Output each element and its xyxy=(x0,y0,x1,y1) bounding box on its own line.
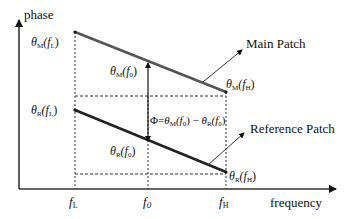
phase-frequency-diagram: phase frequency Main Patch Reference Pat… xyxy=(0,0,350,219)
theta-m-fl-label: θM(fL) xyxy=(31,35,59,50)
tick-fL: fL xyxy=(69,194,78,210)
theta-m-fh-label: θM(fH) xyxy=(226,77,255,92)
theta-m-f0-label: θM(f0) xyxy=(110,64,137,79)
main-patch-callout-arrow xyxy=(203,50,242,82)
tick-fH: fH xyxy=(219,194,229,210)
main-patch-line xyxy=(75,32,226,92)
phase-difference-equation: Φ=θM(f0) − θR(f0) xyxy=(150,114,226,128)
reference-patch-label: Reference Patch xyxy=(250,121,335,136)
tick-f0: f0 xyxy=(143,194,152,210)
x-axis-label: frequency xyxy=(270,195,322,210)
theta-r-fh-label: θR(fH) xyxy=(229,169,256,184)
ref-start-point xyxy=(73,108,76,111)
main-start-point xyxy=(73,30,76,33)
main-patch-label: Main Patch xyxy=(246,36,306,51)
theta-r-fl-label: θR(fL) xyxy=(31,103,57,118)
ref-end-point xyxy=(224,170,227,173)
y-axis-label: phase xyxy=(24,7,54,22)
theta-r-f0-label: θR(f0) xyxy=(110,144,135,159)
